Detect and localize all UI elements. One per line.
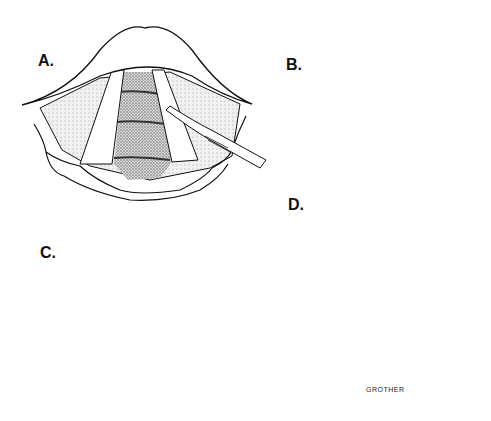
panel-label-a: A. [38,52,54,70]
illustration-canvas [0,0,491,421]
artist-signature: GROTHER [366,386,405,393]
panel-label-c: C. [40,244,56,262]
panel-label-b: B. [286,56,302,74]
panel-a-larynx [22,27,266,200]
panel-label-d: D. [288,196,304,214]
